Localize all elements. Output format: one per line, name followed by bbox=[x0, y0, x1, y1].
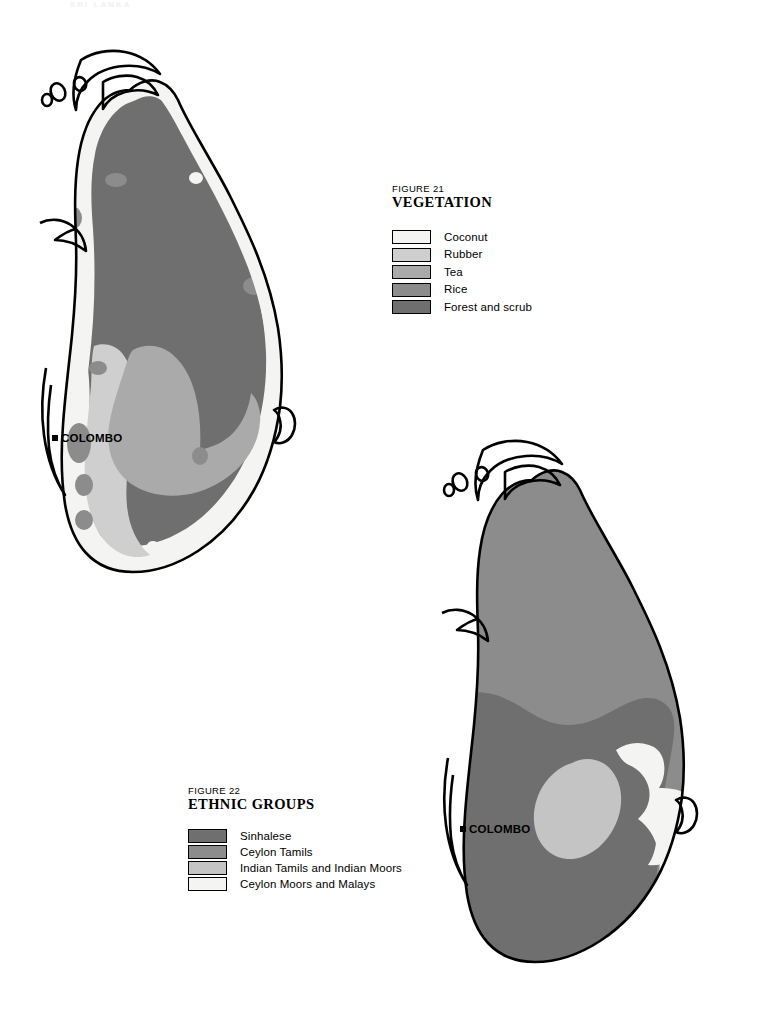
legend-ethnic-groups: FIGURE 22 ETHNIC GROUPS Sinhalese Ceylon… bbox=[188, 785, 402, 891]
legend-swatch bbox=[392, 248, 431, 262]
city-label-colombo-vegetation: COLOMBO bbox=[52, 432, 122, 444]
figure-number: FIGURE 21 bbox=[392, 183, 532, 194]
legend-swatch bbox=[392, 265, 431, 279]
legend-label: Sinhalese bbox=[240, 830, 291, 843]
legend-item: Coconut bbox=[392, 230, 532, 244]
legend-swatch bbox=[188, 829, 227, 843]
legend-label: Tea bbox=[444, 266, 463, 279]
legend-swatch bbox=[392, 230, 431, 244]
legend-swatch bbox=[188, 845, 227, 859]
legend-label: Forest and scrub bbox=[444, 301, 532, 314]
city-name: COLOMBO bbox=[469, 823, 530, 835]
ethnic-groups-map bbox=[420, 428, 780, 1008]
legend-item: Sinhalese bbox=[188, 829, 402, 843]
legend-item: Ceylon Tamils bbox=[188, 845, 402, 859]
legend-swatch bbox=[188, 877, 227, 891]
legend-label: Coconut bbox=[444, 231, 488, 244]
legend-swatch bbox=[392, 300, 431, 314]
city-dot-icon bbox=[52, 435, 58, 441]
legend-item: Rubber bbox=[392, 248, 532, 262]
legend-label: Indian Tamils and Indian Moors bbox=[240, 862, 402, 875]
city-dot-icon bbox=[460, 826, 466, 832]
vegetation-map bbox=[18, 38, 378, 618]
legend-vegetation: FIGURE 21 VEGETATION Coconut Rubber Tea … bbox=[392, 183, 532, 314]
figure-title: VEGETATION bbox=[392, 195, 532, 210]
legend-label: Ceylon Moors and Malays bbox=[240, 878, 375, 891]
legend-item: Indian Tamils and Indian Moors bbox=[188, 861, 402, 875]
legend-label: Rice bbox=[444, 283, 467, 296]
legend-swatch bbox=[392, 283, 431, 297]
city-name: COLOMBO bbox=[61, 432, 122, 444]
legend-label: Ceylon Tamils bbox=[240, 846, 313, 859]
legend-items-ethnic: Sinhalese Ceylon Tamils Indian Tamils an… bbox=[188, 829, 402, 891]
legend-swatch bbox=[188, 861, 227, 875]
legend-item: Tea bbox=[392, 265, 532, 279]
page-canvas: SRI LANKA bbox=[0, 0, 780, 1017]
legend-label: Rubber bbox=[444, 248, 482, 261]
legend-item: Ceylon Moors and Malays bbox=[188, 877, 402, 891]
legend-items-vegetation: Coconut Rubber Tea Rice Forest and scrub bbox=[392, 230, 532, 314]
figure-number: FIGURE 22 bbox=[188, 785, 402, 796]
legend-item: Rice bbox=[392, 283, 532, 297]
running-header: SRI LANKA bbox=[70, 0, 132, 9]
figure-title: ETHNIC GROUPS bbox=[188, 797, 402, 812]
legend-item: Forest and scrub bbox=[392, 300, 532, 314]
city-label-colombo-ethnic: COLOMBO bbox=[460, 823, 530, 835]
